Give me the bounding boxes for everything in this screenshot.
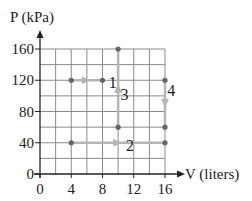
state-point	[69, 78, 74, 83]
y-tick-label: 80	[19, 104, 34, 120]
arrow-icon	[161, 99, 169, 108]
x-axis-label: V (liters)	[185, 166, 239, 183]
x-tick-label: 0	[36, 181, 44, 197]
x-tick-label: 8	[99, 181, 107, 197]
y-tick-label: 160	[12, 41, 35, 57]
state-point	[162, 140, 167, 145]
pv-diagram: 048121604080120160 1234 P (kPa) V (liter…	[0, 0, 252, 201]
y-tick-label: 120	[12, 72, 35, 88]
state-point	[116, 125, 121, 130]
y-tick-label: 40	[19, 135, 34, 151]
y-tick-label: 0	[27, 166, 35, 182]
axes	[34, 32, 183, 178]
state-point	[162, 125, 167, 130]
state-point	[69, 140, 74, 145]
x-tick-label: 4	[68, 181, 76, 197]
x-tick-label: 12	[126, 181, 141, 197]
process-label-1: 1	[109, 74, 117, 91]
process-label-4: 4	[167, 82, 175, 99]
process-label-2: 2	[126, 137, 134, 154]
x-tick-label: 16	[158, 181, 174, 197]
state-point	[100, 78, 105, 83]
process-label-3: 3	[120, 86, 128, 103]
state-point	[116, 46, 121, 51]
y-axis-label: P (kPa)	[10, 9, 54, 26]
grid-lines	[40, 49, 165, 174]
